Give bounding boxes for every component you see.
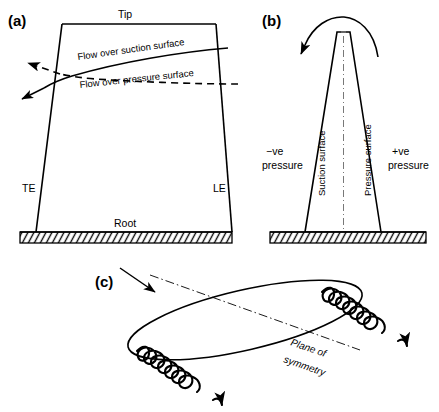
blade-planform-outline (36, 24, 232, 232)
pressure-surface-label: Pressure surface (362, 124, 373, 196)
panel-b: (b) Suction surface Pressure surface −ve… (262, 12, 429, 243)
figure-root: (a) Tip Flow over suction surface Flow o… (0, 0, 439, 412)
positive-pressure-label-line2: pressure (388, 159, 429, 171)
panel-c-label: (c) (95, 273, 113, 290)
tip-vortex-helix-right (322, 288, 407, 346)
suction-surface-label: Suction surface (316, 131, 327, 196)
ground-hatch-a (20, 232, 232, 243)
panel-a-label: (a) (8, 12, 26, 29)
negative-pressure-label-line2: pressure (262, 159, 303, 171)
root-label: Root (114, 217, 136, 229)
rotation-arrow (301, 17, 378, 57)
panel-b-label: (b) (262, 12, 281, 29)
leading-edge-label: LE (213, 182, 226, 194)
plane-of-symmetry-axis (150, 275, 360, 350)
negative-pressure-label-line1: −ve (266, 145, 283, 157)
flow-pressure-label: Flow over pressure surface (79, 67, 194, 90)
positive-pressure-label-line1: +ve (392, 145, 409, 157)
panel-c: (c) Plane of symmetry (95, 264, 407, 405)
incoming-flow-arrow (120, 268, 155, 292)
ground-hatch-b (270, 232, 426, 243)
tip-vortex-helix-left (137, 347, 222, 405)
flow-suction-label: Flow over suction surface (77, 36, 185, 62)
panel-a: (a) Tip Flow over suction surface Flow o… (8, 8, 238, 243)
trailing-edge-label: TE (22, 182, 35, 194)
rotor-disc-ellipse (121, 264, 368, 376)
tip-label: Tip (118, 8, 132, 20)
